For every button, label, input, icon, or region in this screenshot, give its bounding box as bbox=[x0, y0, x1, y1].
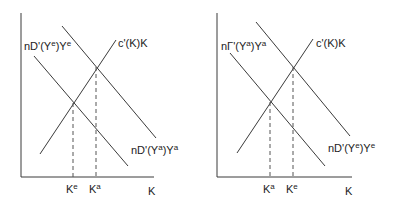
left-demand-lower-label: nD'(Ye)Ye bbox=[24, 40, 71, 52]
left-demand-lower-line bbox=[34, 56, 128, 166]
right-demand-lower-label: nΓ'(Ya)Ya bbox=[221, 40, 266, 52]
right-tick-ke: Ke bbox=[286, 183, 298, 195]
right-tick-ka: Ka bbox=[263, 183, 275, 195]
right-x-axis-label: K bbox=[345, 185, 352, 197]
right-cost-line bbox=[237, 39, 313, 153]
left-tick-ke: Ke bbox=[66, 183, 78, 195]
left-cost-label: c'(K)K bbox=[118, 37, 148, 49]
left-demand-upper-label: nD'(Ya)Ya bbox=[131, 144, 178, 156]
left-tick-ka: Ka bbox=[89, 183, 101, 195]
left-x-axis-label: K bbox=[148, 185, 155, 197]
right-demand-lower-line bbox=[230, 53, 325, 166]
diagram-canvas bbox=[0, 0, 396, 208]
right-demand-upper-label: nD'(Ye)Ye bbox=[328, 142, 375, 154]
left-cost-line bbox=[40, 40, 116, 154]
right-cost-label: c'(K)K bbox=[316, 37, 346, 49]
